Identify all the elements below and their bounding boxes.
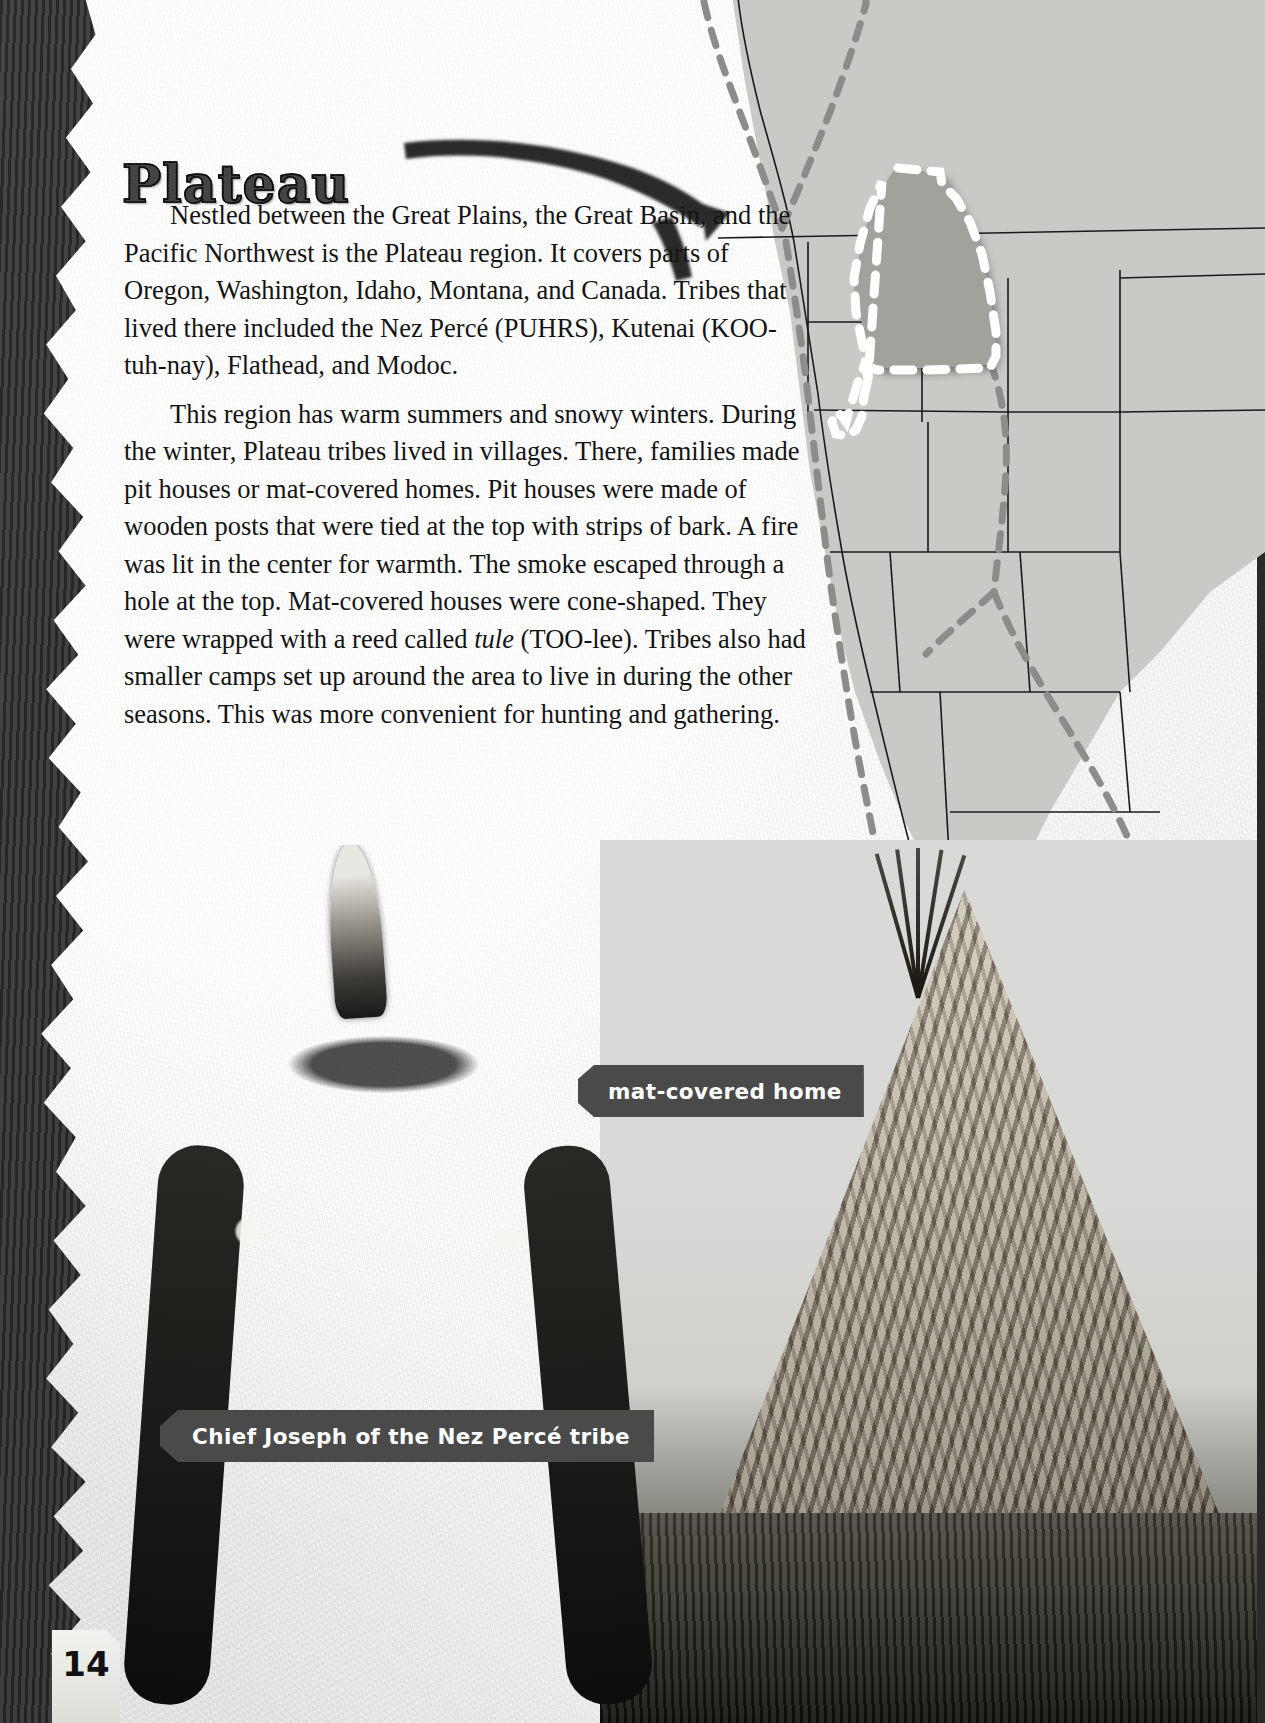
paragraph-1: Nestled between the Great Plains, the Gr… — [124, 197, 804, 385]
glossary-term-tule: tule — [474, 624, 514, 654]
mat-covered-home-photo — [600, 840, 1257, 1723]
caption-mat-covered-home: mat-covered home — [578, 1065, 864, 1117]
caption-chief-joseph: Chief Joseph of the Nez Percé tribe — [160, 1410, 654, 1462]
tipi-ground — [600, 1513, 1257, 1723]
chief-joseph-portrait — [115, 845, 675, 1723]
paragraph-2: This region has warm summers and snowy w… — [124, 396, 824, 734]
article-body: Nestled between the Great Plains, the Gr… — [124, 197, 804, 733]
portrait-face-detail — [115, 845, 675, 1723]
page-number: 14 — [52, 1630, 120, 1723]
paragraph-2-before: This region has warm summers and snowy w… — [124, 399, 799, 654]
